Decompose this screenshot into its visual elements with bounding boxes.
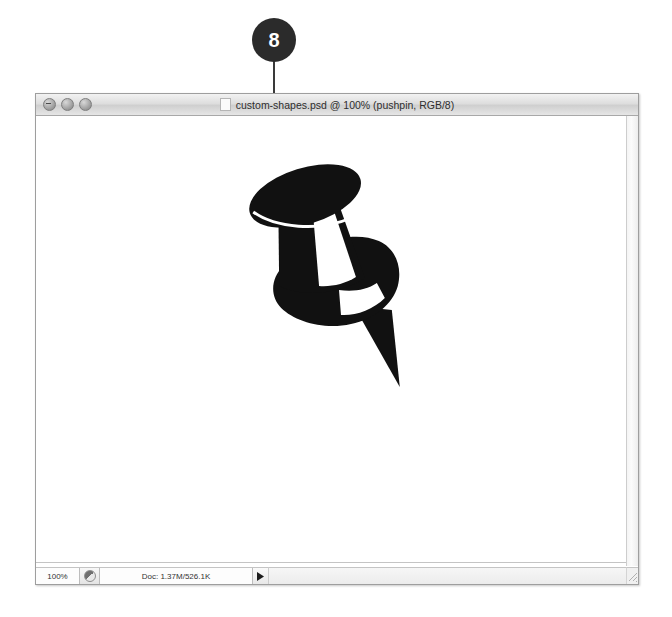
status-bar: 100% Doc: 1.37M/526.1K [36, 567, 268, 584]
vertical-scrollbar[interactable] [626, 116, 638, 566]
doc-size-value: Doc: 1.37M/526.1K [142, 572, 210, 581]
resize-grip-lines [627, 568, 639, 585]
preview-toggle-icon[interactable] [80, 568, 100, 584]
callout-badge-number: 8 [268, 29, 279, 52]
window-title-text: custom-shapes.psd @ 100% (pushpin, RGB/8… [236, 99, 454, 111]
zoom-level-field[interactable]: 100% [36, 568, 80, 584]
resize-grip[interactable] [626, 567, 638, 584]
photoshop-document-window[interactable]: custom-shapes.psd @ 100% (pushpin, RGB/8… [35, 93, 639, 585]
zoom-button[interactable] [79, 98, 92, 111]
zoom-level-value: 100% [47, 572, 67, 581]
callout-badge-8: 8 [252, 18, 296, 62]
minimize-button[interactable] [61, 98, 74, 111]
doc-size-field[interactable]: Doc: 1.37M/526.1K [100, 568, 253, 584]
close-button[interactable] [43, 98, 56, 111]
document-icon [220, 98, 231, 111]
triangle-right-glyph [257, 572, 264, 581]
pushpin-custom-shape [36, 116, 638, 562]
triangle-right-icon[interactable] [253, 568, 268, 584]
horizontal-scrollbar[interactable] [268, 567, 626, 584]
preview-toggle-glyph [84, 570, 96, 582]
window-title-group: custom-shapes.psd @ 100% (pushpin, RGB/8… [36, 94, 638, 115]
window-controls [43, 98, 92, 111]
canvas-area[interactable] [36, 116, 638, 563]
window-title-bar[interactable]: custom-shapes.psd @ 100% (pushpin, RGB/8… [36, 94, 638, 116]
